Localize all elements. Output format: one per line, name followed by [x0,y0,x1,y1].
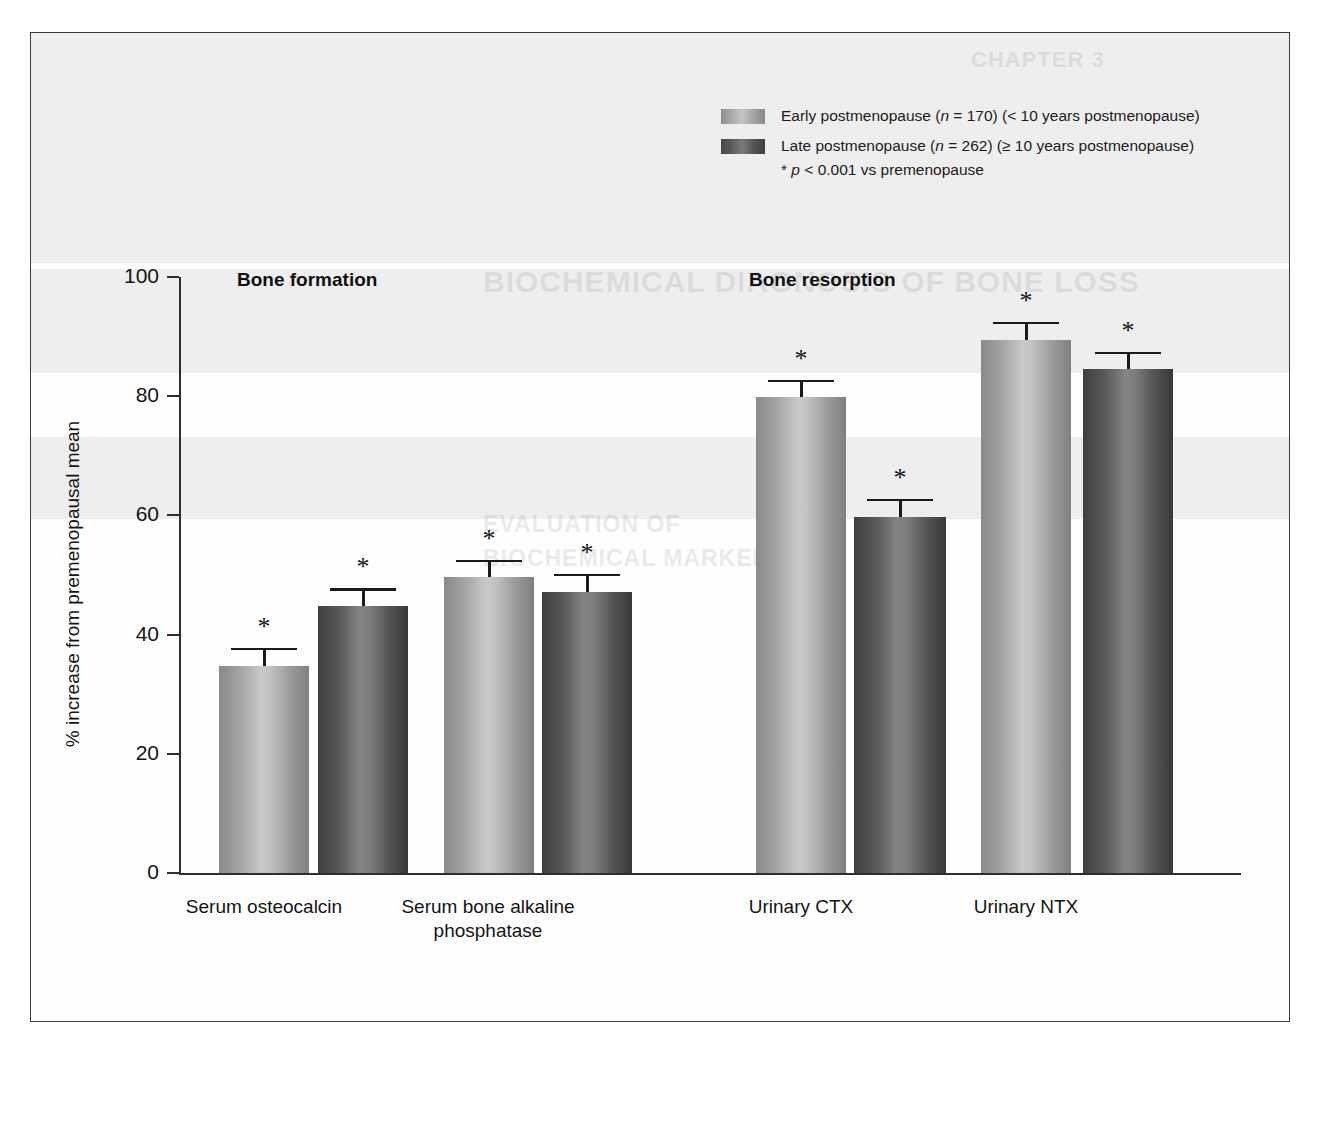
significance-star: * [1114,318,1142,344]
error-bar-stem [800,380,803,398]
significance-star: * [475,526,503,552]
y-axis-line [179,277,181,875]
significance-star: * [1012,288,1040,314]
bar-late-urinary-ctx [854,517,946,873]
error-bar-stem [899,499,902,517]
plot-area: % increase from premenopausal mean 02040… [31,33,1289,1021]
error-bar-stem [586,574,589,592]
error-bar-stem [488,560,491,578]
y-tick-label-80: 80 [91,384,159,405]
y-tick-label-60: 60 [91,503,159,524]
error-bar-stem [362,588,365,606]
bar-early-urinary-ctx [756,397,846,873]
y-tick-20 [167,753,179,755]
bar-late-serum-bone-alkaline-phosphatase [542,592,632,873]
y-tick-label-40: 40 [91,623,159,644]
y-tick-80 [167,395,179,397]
x-category-label-2: Serum bone alkalinephosphatase [358,895,618,943]
bar-early-serum-bone-alkaline-phosphatase [444,577,534,873]
error-bar-stem [263,648,266,666]
error-bar-stem [1127,352,1130,370]
significance-star: * [787,346,815,372]
y-tick-40 [167,634,179,636]
bar-late-urinary-ntx [1083,369,1173,873]
x-category-label-4: Urinary NTX [896,895,1156,919]
x-category-label-1: Serum osteocalcin [134,895,394,919]
significance-star: * [886,465,914,491]
figure-page: CHAPTER 3 BIOCHEMICAL DIAGNOSIS OF BONE … [0,0,1324,1124]
bar-early-urinary-ntx [981,340,1071,873]
y-tick-label-100: 100 [91,265,159,286]
figure-frame: CHAPTER 3 BIOCHEMICAL DIAGNOSIS OF BONE … [30,32,1290,1022]
y-tick-60 [167,514,179,516]
significance-star: * [349,554,377,580]
group-heading-1: Bone formation [237,269,377,291]
y-tick-0 [167,872,179,874]
bar-early-serum-osteocalcin [219,666,309,873]
y-axis-title: % increase from premenopausal mean [62,374,84,794]
y-tick-label-0: 0 [91,861,159,882]
y-tick-100 [167,276,179,278]
x-category-label-3: Urinary CTX [671,895,931,919]
x-axis-line [179,873,1241,875]
bar-late-serum-osteocalcin [318,606,408,873]
significance-star: * [573,540,601,566]
error-bar-stem [1025,322,1028,340]
group-heading-2: Bone resorption [749,269,896,291]
y-tick-label-20: 20 [91,742,159,763]
significance-star: * [250,614,278,640]
